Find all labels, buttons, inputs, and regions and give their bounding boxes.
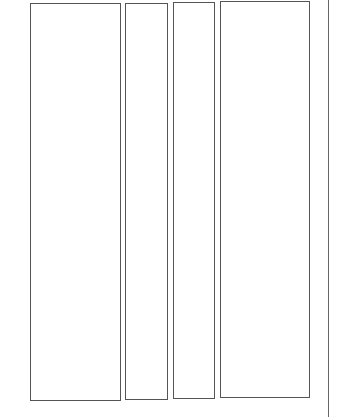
divider-line xyxy=(328,0,329,417)
panel-2 xyxy=(125,3,168,400)
panel-4 xyxy=(220,1,310,398)
panel-3 xyxy=(173,2,215,399)
panel-1 xyxy=(30,3,121,401)
